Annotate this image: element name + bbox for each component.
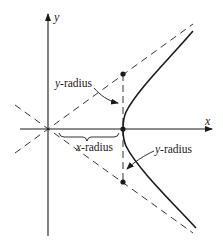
hyperbola-diagram: y x y-radius x-radius y-radius — [0, 0, 223, 249]
y-radius-upper-label: y-radius — [54, 77, 93, 90]
y-radius-upper-leader — [94, 88, 118, 103]
y-radius-lower-label: y-radius — [154, 143, 193, 156]
x-axis-label: x — [204, 114, 211, 128]
asymptote-upper — [15, 24, 193, 153]
asymptote-lower — [15, 105, 193, 233]
x-radius-label: x-radius — [75, 141, 114, 153]
point-upper — [120, 71, 125, 76]
point-vertex — [120, 126, 125, 131]
y-axis-label: y — [53, 10, 60, 24]
x-radius-brace — [59, 133, 119, 141]
point-lower — [120, 179, 125, 184]
